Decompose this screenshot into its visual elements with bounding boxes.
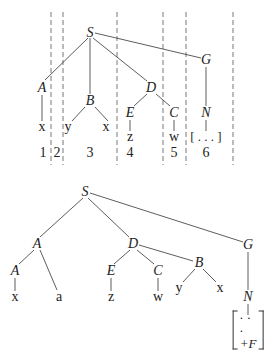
top-tree-edges [42,33,206,131]
top-leaf: w [169,130,179,144]
bottom-leaf: w [153,290,163,304]
top-node-e: E [126,106,135,120]
bottom-node-b: B [195,256,204,270]
right-bracket [259,311,264,350]
bottom-node-s: S [82,185,89,199]
tree-edges [0,0,275,359]
segment-number: 1 [40,146,47,160]
segment-number: 2 [54,146,61,160]
bottom-leaf: a [56,290,62,304]
bottom-leaf: x [12,290,19,304]
top-node-a: A [38,81,47,95]
top-leaf-ellipsis: [ . . . ] [190,130,221,144]
segment-number: 3 [87,146,94,160]
bottom-leaf: z [108,290,114,304]
top-leaf: x [103,120,110,134]
bracket-feature: +F [240,337,257,350]
segment-number: 4 [127,146,134,160]
top-node-s: S [87,26,94,40]
top-node-n: N [201,106,210,120]
top-node-b: B [86,94,95,108]
bracket-ellipsis: · · · [239,311,257,337]
bottom-node-d: D [128,237,138,251]
bottom-leaf: x [217,281,224,295]
bottom-node-n: N [243,290,252,304]
top-node-g: G [201,53,211,67]
bottom-node-g: G [243,238,253,252]
bottom-leaf: y [176,281,183,295]
feature-bracket: · · · +F [233,311,264,350]
top-leaf: y [65,120,72,134]
bottom-node-a: A [33,237,42,251]
bottom-node-c: C [153,264,162,278]
bottom-node-a-child: A [11,264,20,278]
top-node-c: C [169,106,178,120]
bottom-tree-edges [15,193,248,315]
top-leaf: z [127,130,133,144]
segment-number: 6 [203,146,210,160]
bottom-node-e: E [107,264,116,278]
segment-number: 5 [171,146,178,160]
top-leaf: x [39,120,46,134]
top-node-d: D [146,81,156,95]
